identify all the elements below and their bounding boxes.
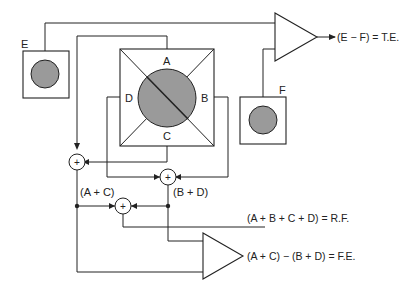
output-focus-error: (A + C) − (B + D) = F.E.	[247, 250, 356, 262]
diff-amp-te	[275, 13, 317, 61]
arrowhead	[74, 143, 80, 150]
arrowhead	[329, 34, 336, 40]
detector-e-disc	[31, 60, 59, 88]
summer-symbol: +	[120, 201, 126, 212]
summer-symbol: +	[74, 157, 80, 168]
label-e: E	[21, 38, 28, 50]
wire-f-to-diff-amp	[263, 49, 275, 97]
label-f: F	[279, 84, 286, 96]
summer-symbol: +	[165, 172, 171, 183]
wire-c-to-summer-ac	[84, 146, 167, 162]
wire-rf-out	[123, 214, 265, 227]
arrowhead	[154, 174, 160, 180]
diff-amp-fe	[203, 233, 243, 279]
node-label-b-plus-d: (B + D)	[173, 186, 208, 198]
node-label-a-plus-c: (A + C)	[80, 186, 115, 198]
output-tracking-error: (E − F) = T.E.	[337, 31, 399, 43]
label-d: D	[125, 92, 133, 104]
output-rf: (A + B + C + D) = R.F.	[247, 212, 349, 224]
arrowhead	[131, 203, 137, 209]
arrowhead	[109, 203, 115, 209]
label-c: C	[163, 130, 171, 142]
block-diagram: E F A B C D (E − F) = T.E. + + (A + C) (…	[0, 0, 419, 296]
label-a: A	[163, 55, 171, 67]
wire-e-to-diff-amp	[45, 23, 275, 51]
detector-f-disc	[249, 106, 277, 134]
label-b: B	[201, 92, 208, 104]
